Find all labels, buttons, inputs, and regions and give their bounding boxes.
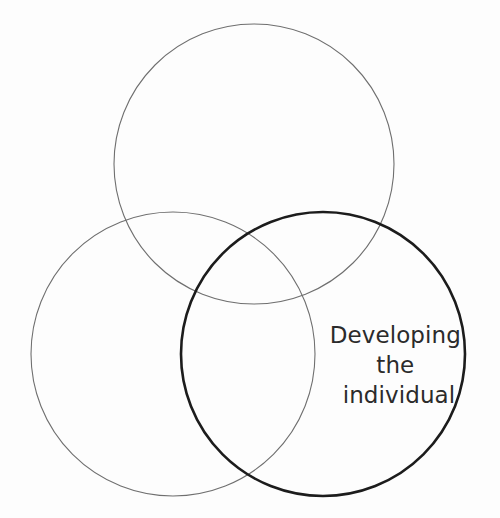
label-line-developing: Developing [330,322,461,348]
venn-diagram-canvas: Developing the individual [0,0,500,518]
label-line-the: the [376,352,414,378]
diagram-background [0,0,500,518]
venn-diagram-svg: Developing the individual [0,0,500,518]
label-line-individual: individual [343,382,456,408]
